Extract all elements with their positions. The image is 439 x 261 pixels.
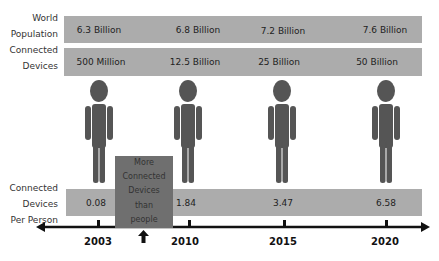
- callout-line: than: [115, 199, 173, 213]
- connected-devices-label: Connected Devices: [0, 42, 58, 74]
- person-icon: [371, 80, 401, 184]
- callout-line: people: [115, 213, 173, 227]
- label-line: World: [0, 10, 58, 26]
- world-population-2015: 7.2 Billion: [261, 26, 306, 36]
- person-icon: [173, 80, 203, 184]
- per-person-2003: 0.08: [86, 198, 106, 208]
- label-line: Connected: [0, 42, 58, 58]
- arrow-right-icon: [421, 222, 430, 232]
- year-2010: 2010: [171, 236, 199, 247]
- arrow-left-icon: [36, 222, 45, 232]
- tick-2010: [188, 220, 191, 227]
- callout-box: More Connected Devices than people: [115, 156, 173, 228]
- tick-2003: [97, 220, 100, 227]
- callout-line: Devices: [115, 184, 173, 198]
- connected-devices-2010: 12.5 Billion: [170, 57, 220, 67]
- connected-devices-2020: 50 Billion: [356, 57, 398, 67]
- tick-2020: [385, 220, 388, 227]
- arrow-up-icon: [138, 230, 149, 243]
- timeline-axis: [36, 220, 430, 234]
- connected-devices-2003: 500 Million: [76, 57, 125, 67]
- world-population-2010: 6.8 Billion: [176, 25, 221, 35]
- person-icon: [84, 80, 114, 184]
- per-person-2015: 3.47: [273, 198, 293, 208]
- year-2020: 2020: [371, 236, 399, 247]
- label-line: Population: [0, 26, 58, 42]
- year-2015: 2015: [269, 236, 297, 247]
- label-line: Devices: [0, 196, 58, 212]
- callout-line: Connected: [115, 170, 173, 184]
- label-line: Devices: [0, 58, 58, 74]
- world-population-label: World Population: [0, 10, 58, 42]
- world-population-2003: 6.3 Billion: [77, 25, 122, 35]
- per-person-2010: 1.84: [176, 198, 196, 208]
- connected-devices-2015: 25 Billion: [258, 57, 300, 67]
- tick-2015: [283, 220, 286, 227]
- year-2003: 2003: [84, 236, 112, 247]
- world-population-2020: 7.6 Billion: [363, 25, 408, 35]
- person-icon: [267, 80, 297, 184]
- per-person-2020: 6.58: [376, 198, 396, 208]
- label-line: Connected: [0, 180, 58, 196]
- callout-line: More: [115, 156, 173, 170]
